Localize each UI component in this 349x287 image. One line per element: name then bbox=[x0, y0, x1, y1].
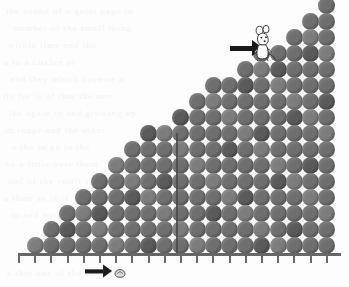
x-axis-tick bbox=[83, 255, 85, 263]
seed-icon bbox=[113, 268, 127, 279]
x-axis-ticks bbox=[0, 0, 349, 287]
x-axis-tick bbox=[148, 255, 150, 263]
x-axis-tick bbox=[164, 255, 166, 263]
x-axis-tick bbox=[99, 255, 101, 263]
mouse-icon bbox=[250, 24, 278, 62]
x-axis-tick bbox=[261, 255, 263, 263]
x-axis-tick bbox=[245, 255, 247, 263]
x-axis-tick bbox=[67, 255, 69, 263]
x-axis-tick bbox=[18, 255, 20, 263]
x-axis-tick bbox=[180, 255, 182, 263]
x-axis-tick bbox=[326, 255, 328, 263]
x-axis-tick bbox=[229, 255, 231, 263]
x-axis-tick bbox=[310, 255, 312, 263]
mouse-figure bbox=[250, 24, 278, 62]
seed-figure bbox=[113, 265, 127, 276]
x-axis-tick bbox=[212, 255, 214, 263]
x-axis-tick bbox=[277, 255, 279, 263]
x-axis-tick bbox=[131, 255, 133, 263]
x-axis-tick bbox=[50, 255, 52, 263]
arrow-head bbox=[103, 264, 112, 277]
x-axis-tick bbox=[293, 255, 295, 263]
x-axis-tick bbox=[196, 255, 198, 263]
arrow-pointing-to-seed bbox=[85, 264, 112, 277]
arrow-shaft bbox=[85, 269, 103, 273]
figure-canvas: the sound of a quiet page in number of t… bbox=[0, 0, 349, 287]
x-axis-tick bbox=[115, 255, 117, 263]
x-axis-tick bbox=[34, 255, 36, 263]
arrow-shaft bbox=[230, 46, 252, 51]
